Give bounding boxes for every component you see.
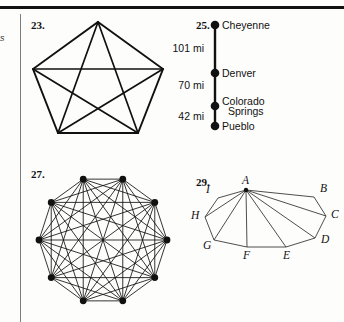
graph-vertex <box>80 297 87 304</box>
graph-vertex <box>48 199 55 206</box>
city-dot-pueblo <box>211 122 220 131</box>
vertex-label-c: C <box>331 208 339 220</box>
graph-vertex <box>151 199 158 206</box>
vertex-label-e: E <box>283 249 290 261</box>
city-label-pueblo: Pueblo <box>222 121 255 132</box>
left-column-rule <box>20 14 21 322</box>
vertex-label-h: H <box>191 209 199 221</box>
city-dot-cheyenne <box>211 21 220 30</box>
graph-vertex <box>48 274 55 281</box>
graph-vertex <box>164 237 171 244</box>
distance-label-cheyenne-denver: 101 mi <box>161 42 204 54</box>
city-dot-colorado-springs <box>211 102 220 111</box>
figure-27-complete-graph-decagon <box>33 170 173 310</box>
city-label-cheyenne: Cheyenne <box>222 20 270 31</box>
textbook-page: s 23. 25. Cheyenne Denver Colorado Sprin… <box>0 0 344 322</box>
graph-vertex <box>36 237 43 244</box>
distance-label-colorado-springs-pueblo: 42 mi <box>161 110 204 122</box>
vertex-label-d: D <box>321 233 329 245</box>
vertex-label-f: F <box>243 249 250 261</box>
figure-29-nonagon-diagonals <box>198 185 333 255</box>
vertex-label-g: G <box>203 239 211 251</box>
vertex-label-b: B <box>320 182 327 194</box>
top-horizontal-rule <box>0 6 344 9</box>
distance-label-denver-colorado-springs: 70 mi <box>161 79 204 91</box>
graph-vertex <box>119 176 126 183</box>
vertex-label-i: I <box>206 183 210 195</box>
margin-text-fragment: s <box>0 33 5 43</box>
graph-vertex <box>80 176 87 183</box>
vertex-dot-a <box>244 188 248 192</box>
city-label-denver: Denver <box>222 68 256 79</box>
vertex-label-a: A <box>242 174 249 186</box>
city-label-colorado-springs-line2: Springs <box>228 106 264 117</box>
graph-vertex <box>119 297 126 304</box>
graph-vertex <box>151 274 158 281</box>
city-dot-denver <box>211 69 220 78</box>
figure-23-complete-graph-pentagon <box>26 15 171 143</box>
